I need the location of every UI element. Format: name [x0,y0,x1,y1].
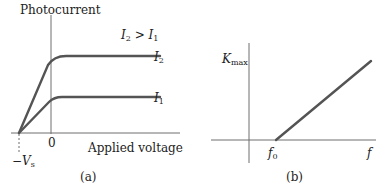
panel-a-caption: (a) [80,171,97,183]
panel-a-curve-i2 [19,56,160,133]
panel-a-annotation: I2 > I1 [121,29,158,43]
panel-b-ylabel: Kmax [222,53,248,67]
panel-b-threshold: f0 [268,147,278,161]
panel-a-ylabel: Photocurrent [20,4,101,16]
panel-a-zero-tick: 0 [48,137,56,149]
panel-b-caption: (b) [286,171,303,183]
figure-canvas [0,0,388,188]
panel-b-xlabel: f [367,147,371,159]
panel-b-kmax-line [276,61,371,140]
panel-a-label-i2: I2 [154,51,164,65]
panel-a-stopping-voltage: −Vs [12,155,35,169]
panel-a-label-i1: I1 [154,92,164,106]
panel-a-curve-i1 [19,97,160,133]
panel-a-xlabel: Applied voltage [88,142,183,154]
